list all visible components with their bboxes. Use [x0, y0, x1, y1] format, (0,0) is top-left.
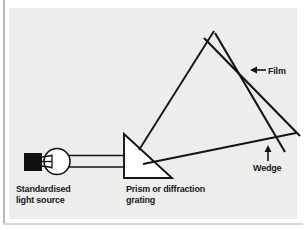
prism-triangle: [124, 134, 172, 178]
wedge-plate: [215, 33, 285, 152]
label-wedge: Wedge: [253, 163, 281, 174]
dispersed-ray-upper: [139, 31, 214, 150]
dispersed-ray-lower: [143, 133, 296, 164]
label-film: Film: [268, 66, 286, 77]
light-beam: [69, 156, 124, 168]
film-plane: [204, 38, 300, 136]
arrow-up-icon: [265, 145, 272, 161]
arrow-left-icon: [250, 67, 266, 74]
label-standardised-light-source: Standardised light source: [16, 184, 71, 206]
lamp-housing-icon: [24, 153, 42, 171]
figure-root: Standardised light source Prism or diffr…: [0, 0, 307, 230]
label-prism-or-diffraction-grating: Prism or diffraction grating: [126, 184, 205, 206]
